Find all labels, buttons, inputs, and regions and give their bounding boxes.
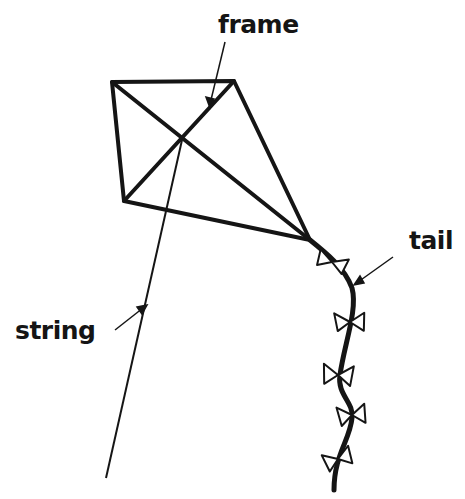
frame-arrow xyxy=(206,42,225,108)
kite-illustration xyxy=(0,0,465,499)
label-frame: frame xyxy=(218,12,299,37)
tail-bow xyxy=(315,249,349,274)
kite-diagram: frame tail string xyxy=(0,0,465,499)
tail-arrow xyxy=(354,257,393,285)
label-tail: tail xyxy=(409,228,453,253)
label-string: string xyxy=(15,318,95,343)
